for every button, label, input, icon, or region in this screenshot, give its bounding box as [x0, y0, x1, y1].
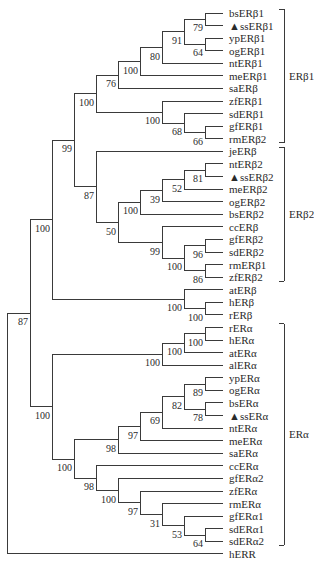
- leaf-label: alERα: [229, 359, 257, 371]
- leaf-label: ccERα: [229, 460, 259, 472]
- leaf-label: saERβ: [229, 82, 258, 94]
- bootstrap-value: 82: [172, 400, 182, 411]
- bootstrap-value: 100: [145, 357, 160, 368]
- bootstrap-value: 64: [193, 47, 203, 58]
- bootstrap-value: 100: [188, 337, 203, 348]
- leaf-label: meERβ1: [229, 70, 268, 82]
- bootstrap-value: 97: [128, 506, 138, 517]
- leaf-label: ntERβ1: [229, 57, 263, 69]
- leaf-label: ntERα: [229, 422, 258, 434]
- leaf-label: ▲ssERβ1: [229, 20, 274, 32]
- bootstrap-value: 100: [188, 312, 203, 323]
- bootstrap-value: 100: [35, 410, 50, 421]
- bootstrap-value: 64: [193, 538, 203, 549]
- leaf-label: gfERα2: [229, 472, 263, 484]
- bootstrap-value: 39: [150, 194, 160, 205]
- bootstrap-value: 69: [150, 415, 160, 426]
- bootstrap-value: 79: [193, 22, 203, 33]
- bootstrap-value: 99: [150, 246, 160, 257]
- clade-label: ERβ2: [289, 208, 314, 220]
- bootstrap-value: 98: [106, 443, 116, 454]
- leaf-label: ccERβ: [229, 221, 259, 233]
- leaf-label: zfERβ1: [229, 95, 263, 107]
- bootstrap-value: 100: [167, 302, 182, 313]
- leaf-label: zfERβ2: [229, 271, 263, 283]
- leaf-label: ypERα: [229, 372, 260, 384]
- clade-brackets: ERβ1ERβ2ERα: [289, 70, 314, 441]
- leaf-label: rERβ: [229, 309, 253, 321]
- leaf-label: saERα: [229, 447, 258, 459]
- bootstrap-value: 52: [172, 183, 182, 194]
- bootstrap-value: 100: [123, 205, 138, 216]
- bootstrap-value: 80: [150, 51, 160, 62]
- leaf-label: meERβ2: [229, 183, 268, 195]
- leaf-labels: bsERβ1▲ssERβ1ypERβ1ogERβ1ntERβ1meERβ1saE…: [228, 7, 274, 560]
- leaf-label: gfERα1: [229, 510, 263, 522]
- leaf-label: bsERβ2: [229, 208, 264, 220]
- bootstrap-value: 91: [172, 35, 182, 46]
- leaf-label: rmERβ1: [229, 259, 266, 271]
- leaf-label: sdERβ1: [229, 108, 264, 120]
- leaf-label: gfERβ2: [229, 233, 263, 245]
- leaf-label: zfERα: [229, 485, 258, 497]
- bootstrap-value: 100: [79, 97, 94, 108]
- bootstrap-value: 100: [167, 261, 182, 272]
- leaf-label: ogERα: [229, 384, 260, 396]
- leaf-label: ▲ssERβ2: [229, 171, 274, 183]
- bootstrap-value: 100: [101, 494, 116, 505]
- leaf-label: jeERβ: [228, 145, 257, 157]
- leaf-label: rmERα: [229, 498, 261, 510]
- leaf-label: rmERβ2: [229, 133, 266, 145]
- leaf-label: hERα: [229, 334, 255, 346]
- leaf-label: bsERβ1: [229, 7, 264, 19]
- bootstrap-value: 53: [172, 529, 182, 540]
- bootstrap-value: 68: [172, 126, 182, 137]
- bootstrap-value: 87: [84, 190, 94, 201]
- leaf-label: ▲ssERα: [229, 410, 269, 422]
- leaf-label: ypERβ1: [229, 32, 265, 44]
- leaf-label: sdERβ2: [229, 246, 264, 258]
- leaf-label: gfERβ1: [229, 120, 263, 132]
- bootstrap-value: 96: [193, 249, 203, 260]
- bootstrap-value: 86: [193, 274, 203, 285]
- leaf-label: atERβ: [229, 284, 257, 296]
- leaf-label: sdERα1: [229, 523, 264, 535]
- bootstrap-value: 87: [18, 316, 28, 327]
- bootstrap-value: 100: [57, 462, 72, 473]
- leaf-label: atERα: [229, 347, 257, 359]
- clade-label: ERβ1: [289, 70, 314, 82]
- bootstrap-value: 100: [123, 65, 138, 76]
- bootstrap-value: 100: [167, 346, 182, 357]
- leaf-label: hERR: [229, 548, 257, 560]
- bootstrap-value: 50: [106, 226, 116, 237]
- leaf-label: rERα: [229, 322, 253, 334]
- leaf-label: bsERα: [229, 397, 259, 409]
- leaf-label: sdERα2: [229, 535, 264, 547]
- bootstrap-value: 99: [62, 143, 72, 154]
- bootstrap-value: 76: [106, 78, 116, 89]
- leaf-label: ntERβ2: [229, 158, 263, 170]
- leaf-label: meERα: [229, 435, 262, 447]
- bootstrap-value: 31: [150, 518, 160, 529]
- clade-label: ERα: [289, 428, 309, 440]
- bootstrap-value: 66: [193, 136, 203, 147]
- bootstrap-value: 81: [193, 173, 203, 184]
- leaf-label: hERβ: [229, 296, 255, 308]
- bootstrap-value: 89: [193, 387, 203, 398]
- phylogenetic-tree: 7964918010076666810010081523910096861009…: [0, 0, 314, 567]
- bootstrap-value: 100: [145, 115, 160, 126]
- bootstrap-value: 100: [35, 223, 50, 234]
- leaf-label: ogERβ1: [229, 45, 265, 57]
- bootstrap-value: 78: [193, 412, 203, 423]
- leaf-label: ogERβ2: [229, 196, 265, 208]
- bootstrap-value: 98: [84, 481, 94, 492]
- bootstrap-value: 97: [128, 430, 138, 441]
